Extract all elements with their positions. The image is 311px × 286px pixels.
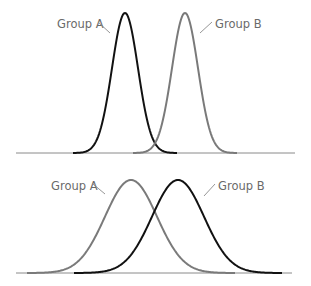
- distribution-diagram: Group A Group B Group A Group B: [0, 0, 311, 286]
- bottom-chart: Group A Group B: [16, 179, 292, 273]
- top-group-b-leader: [200, 22, 212, 33]
- bottom-group-b-label: Group B: [218, 179, 265, 193]
- bottom-group-b-leader: [204, 184, 215, 196]
- top-group-a-label: Group A: [57, 17, 104, 31]
- bottom-group-a-curve: [27, 180, 235, 273]
- top-group-b-curve: [133, 13, 237, 153]
- top-group-b-label: Group B: [215, 17, 262, 31]
- bottom-group-b-curve: [74, 180, 282, 273]
- bottom-group-a-label: Group A: [51, 179, 98, 193]
- top-group-a-curve: [73, 13, 177, 153]
- top-chart: Group A Group B: [16, 13, 295, 153]
